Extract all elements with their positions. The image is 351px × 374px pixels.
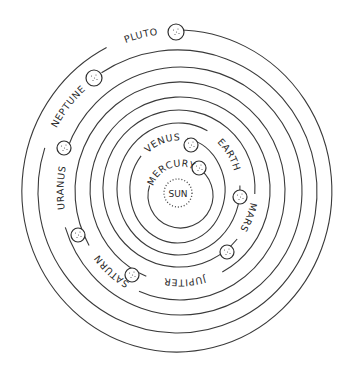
planet-saturn-icon (71, 228, 85, 242)
label-saturn: SATURN (92, 253, 131, 290)
planet-uranus-icon (57, 141, 71, 155)
label-pluto: PLUTO (122, 26, 158, 45)
label-mars: MARS (238, 202, 259, 235)
planets-group (57, 24, 247, 282)
label-jupiter: JUPITER (163, 274, 208, 289)
label-mercury: MERCURY (145, 157, 198, 187)
label-uranus: URANUS (55, 165, 68, 211)
label-venus: VENUS (142, 132, 180, 155)
planet-earth-icon (233, 190, 247, 204)
planet-venus-icon (184, 138, 198, 152)
planet-mars-icon (220, 245, 234, 259)
solar-system-diagram: SUN MERCURYVENUSEARTHMARSJUPITERSATURNUR… (0, 0, 351, 374)
sun: SUN (164, 179, 192, 207)
planet-neptune-icon (86, 70, 102, 86)
planet-pluto-icon (168, 24, 184, 40)
label-neptune: NEPTUNE (49, 83, 88, 129)
sun-label: SUN (168, 189, 187, 199)
